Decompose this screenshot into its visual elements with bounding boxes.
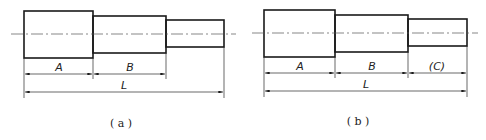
- dim-label-b-B: B: [368, 60, 376, 73]
- caption-b: ( b ): [347, 115, 370, 128]
- shaft-b: [264, 10, 467, 57]
- stepped-shaft-figure: A B L ( a ) A B (C) L ( b ): [0, 0, 486, 140]
- dim-label-b-C: (C): [429, 60, 445, 73]
- shaft-b-section-1: [264, 10, 335, 57]
- panel-b: A B (C) L ( b ): [252, 10, 478, 128]
- dim-label-a-A: A: [54, 61, 63, 74]
- shaft-a-section-3: [166, 20, 224, 47]
- dim-label-b-A: A: [295, 60, 304, 73]
- shaft-a: [24, 11, 224, 58]
- dim-label-a-B: B: [126, 61, 134, 74]
- dim-label-a-L: L: [121, 79, 127, 92]
- panel-a: A B L ( a ): [11, 11, 236, 130]
- dim-label-b-L: L: [363, 78, 369, 91]
- shaft-a-section-2: [93, 16, 166, 53]
- caption-a: ( a ): [110, 117, 132, 130]
- shaft-b-section-2: [335, 15, 408, 52]
- shaft-a-section-1: [24, 11, 93, 58]
- shaft-b-section-3: [408, 19, 467, 46]
